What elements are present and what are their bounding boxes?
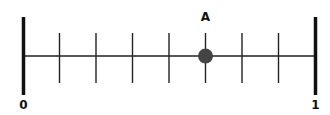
tick-marks — [60, 33, 279, 83]
point-a-label: A — [201, 10, 211, 24]
end-label: 1 — [311, 98, 319, 112]
number-line-diagram: A 0 1 — [0, 0, 330, 115]
start-label: 0 — [19, 98, 27, 112]
point-a-marker — [198, 49, 213, 64]
